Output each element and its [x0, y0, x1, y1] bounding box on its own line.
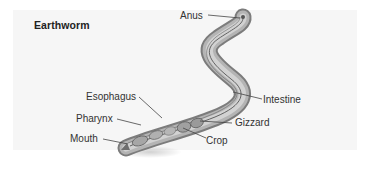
label-gizzard: Gizzard	[235, 117, 269, 128]
label-mouth: Mouth	[70, 133, 98, 144]
earthworm-diagram: Anus Intestine Esophagus Pharynx Gizzard…	[0, 0, 371, 170]
label-anus: Anus	[180, 10, 203, 21]
leader-pharynx	[117, 119, 141, 125]
label-intestine: Intestine	[263, 94, 301, 105]
anus-tip	[241, 15, 245, 19]
earthworm-body	[121, 15, 245, 150]
leader-esophagus	[139, 97, 162, 118]
label-esophagus: Esophagus	[86, 91, 136, 102]
label-pharynx: Pharynx	[76, 113, 113, 124]
label-crop: Crop	[206, 135, 228, 146]
